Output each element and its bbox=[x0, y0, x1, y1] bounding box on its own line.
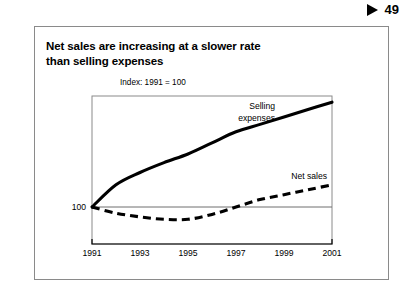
plot-frame bbox=[92, 96, 332, 244]
x-tick-label: 1993 bbox=[130, 248, 149, 258]
x-axis bbox=[92, 239, 332, 244]
series-line-net-sales bbox=[92, 185, 332, 220]
page-root: 49 Net sales are increasing at a slower … bbox=[0, 0, 409, 295]
triangle-right-icon bbox=[367, 4, 378, 16]
x-tick-label: 1991 bbox=[82, 248, 101, 258]
x-tick-label: 1995 bbox=[178, 248, 197, 258]
chart-svg: 100 1991 1993 1995 1997 1999 2001 Sellin… bbox=[35, 27, 390, 281]
y-tick-label-100: 100 bbox=[72, 202, 87, 212]
series-label-net-sales: Net sales bbox=[291, 171, 327, 181]
page-number: 49 bbox=[385, 3, 399, 16]
page-marker: 49 bbox=[367, 3, 399, 16]
x-tick-label: 2001 bbox=[322, 248, 341, 258]
exhibit-card: Net sales are increasing at a slower rat… bbox=[34, 26, 389, 280]
series-label-selling-expenses: Selling bbox=[249, 101, 275, 111]
line-chart: 100 1991 1993 1995 1997 1999 2001 Sellin… bbox=[35, 27, 390, 281]
series-label-selling-expenses-2: expenses bbox=[238, 113, 275, 123]
x-tick-label: 1997 bbox=[226, 248, 245, 258]
x-tick-label: 1999 bbox=[274, 248, 293, 258]
